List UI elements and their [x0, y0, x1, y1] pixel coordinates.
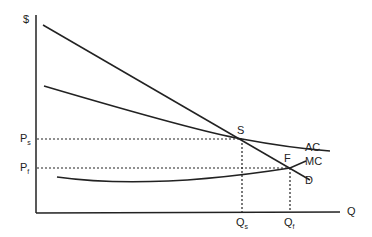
- demand-curve: [43, 25, 310, 180]
- y-axis-label: $: [23, 13, 29, 25]
- quantity-s-label: Qs: [236, 216, 249, 230]
- quantity-f-label: Qf: [284, 216, 295, 230]
- point-s-label: S: [237, 124, 244, 136]
- mc-label: MC: [305, 155, 322, 167]
- x-axis-label: Q: [347, 205, 356, 217]
- ac-label: AC: [305, 141, 320, 153]
- economics-diagram: $ Q AC MC D S F Ps Pf Qs Qf: [0, 0, 372, 237]
- x-axis: [36, 212, 340, 213]
- price-f-label: Pf: [20, 161, 29, 175]
- price-s-label: Ps: [20, 132, 31, 146]
- average-cost-curve: [44, 86, 330, 151]
- d-label: D: [305, 174, 313, 186]
- marginal-cost-curve: [57, 161, 306, 182]
- point-f-label: F: [284, 152, 291, 164]
